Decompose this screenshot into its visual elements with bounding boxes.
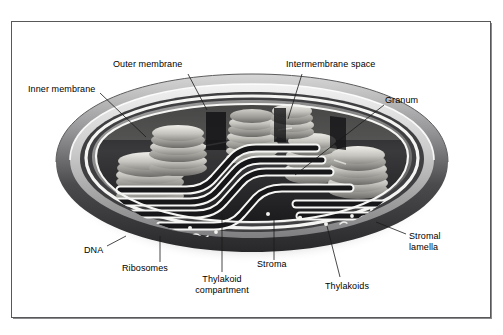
label-thylakoid-compartment-line2: compartment <box>161 285 283 296</box>
label-thylakoids: Thylakoids <box>325 281 369 292</box>
label-thylakoid-compartment: Thylakoid compartment <box>161 274 283 295</box>
label-stromal-lamella: Stromal lamella <box>409 231 441 252</box>
label-granum: Granum <box>385 95 418 106</box>
chloroplast-figure: Inner membrane Outer membrane Intermembr… <box>0 0 503 335</box>
label-ribosomes: Ribosomes <box>122 263 168 274</box>
label-dna: DNA <box>84 245 103 256</box>
label-stromal-lamella-line2: lamella <box>409 242 441 253</box>
label-stromal-lamella-line1: Stromal <box>409 231 441 242</box>
label-stroma: Stroma <box>257 259 287 270</box>
granum-stack-2 <box>149 125 207 176</box>
label-outer-membrane: Outer membrane <box>113 59 182 70</box>
label-intermembrane-space: Intermembrane space <box>286 59 375 70</box>
label-inner-membrane: Inner membrane <box>28 84 95 95</box>
label-thylakoid-compartment-line1: Thylakoid <box>161 274 283 285</box>
